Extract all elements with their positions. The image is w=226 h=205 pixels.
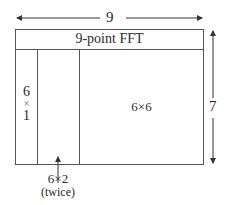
width-label: 9 [106,9,114,26]
height-label: 7 [208,98,218,115]
header-fft-label: 9-point FFT [15,31,204,47]
left-block-cols: 1 [16,110,37,122]
right-block-label: 6×6 [80,99,203,115]
left-block-rows: 6 [16,86,37,98]
middle-block-note: (twice) [30,185,86,200]
left-block-label: 6 × 1 [16,86,37,122]
